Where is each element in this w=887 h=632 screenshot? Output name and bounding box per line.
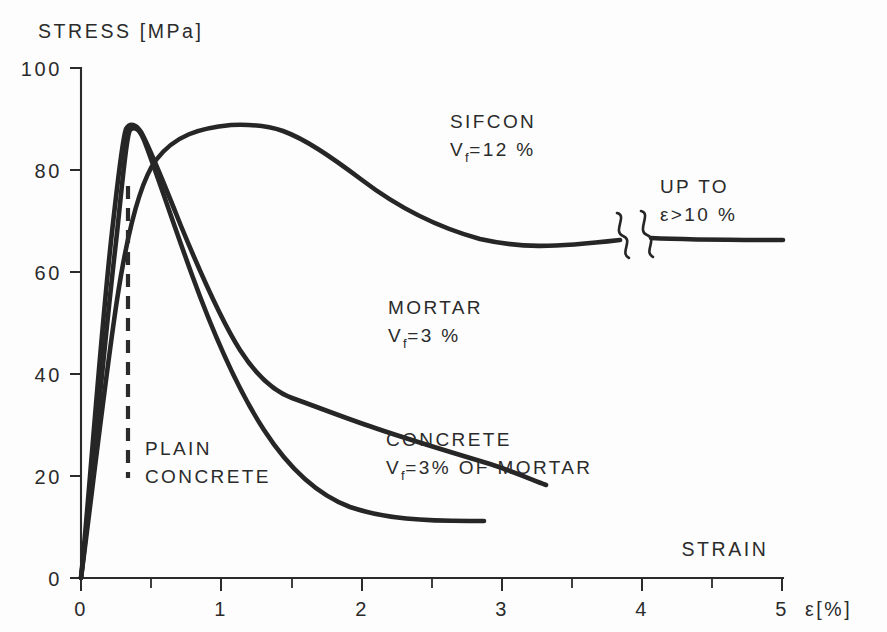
annotation-mortar-line2: Vf=3 % [388,325,461,351]
y-axis-ticks [70,68,81,578]
x-tick-label-2: 2 [355,598,369,620]
annotation-concrete-line1: CONCRETE [386,429,512,450]
annotation-up-to-line1: UP TO [660,176,729,197]
annotation-plain-concrete-line2: CONCRETE [145,466,271,487]
annotation-concrete-line2: Vf=3% OF MORTAR [386,457,592,483]
sifcon-vf-pre: V [450,139,465,160]
y-tick-label-100: 100 [21,58,62,80]
mortar-vf-post: =3 % [407,325,460,346]
x-tick-label-5: 5 [775,598,789,620]
curve-mortar [81,125,546,578]
y-tick-label-80: 80 [35,160,62,182]
annotation-sifcon: SIFCON Vf=12 % [450,111,536,165]
axis-break-symbol [617,211,653,258]
x-axis-unit-label: ε[%] [805,598,852,620]
y-tick-label-0: 0 [48,568,62,590]
y-tick-label-40: 40 [35,364,62,386]
annotation-plain-concrete-line1: PLAIN [145,438,212,459]
annotation-up-to-line2: ε>10 % [660,204,737,225]
y-axis-title: STRESS [MPa] [38,20,204,42]
x-tick-label-3: 3 [495,598,509,620]
x-axis-title: STRAIN [681,538,768,560]
stress-strain-chart: STRESS [MPa] 100 80 60 40 20 0 [0,0,887,632]
x-axis-minor-ticks [151,578,712,588]
sifcon-vf-post: =12 % [469,139,535,160]
x-tick-label-0: 0 [74,598,88,620]
annotation-plain-concrete: PLAIN CONCRETE [145,438,271,487]
chart-canvas: STRESS [MPa] 100 80 60 40 20 0 [0,0,887,632]
annotation-mortar: MORTAR Vf=3 % [388,297,483,351]
curve-sifcon-after-break [651,238,783,240]
x-tick-label-4: 4 [635,598,649,620]
y-tick-label-60: 60 [35,262,62,284]
annotation-sifcon-line2: Vf=12 % [450,139,536,165]
x-tick-label-1: 1 [214,598,228,620]
concrete-vf-post: =3% OF MORTAR [405,457,592,478]
annotation-up-to: UP TO ε>10 % [660,176,737,225]
annotation-concrete: CONCRETE Vf=3% OF MORTAR [386,429,592,483]
y-tick-label-20: 20 [35,466,62,488]
mortar-vf-pre: V [388,325,403,346]
annotation-sifcon-line1: SIFCON [450,111,536,132]
concrete-vf-pre: V [386,457,401,478]
annotation-mortar-line1: MORTAR [388,297,483,318]
